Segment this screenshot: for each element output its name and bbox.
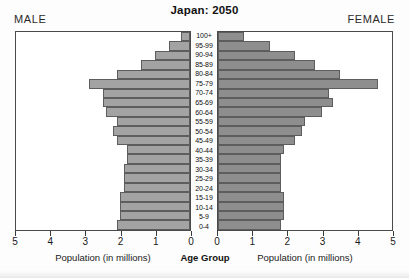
- age-group-label: 45-49: [191, 136, 217, 146]
- female-axis-caption: Population (in millions): [217, 252, 393, 263]
- age-group-label: 60-64: [191, 107, 217, 117]
- age-group-label: 5-9: [191, 212, 217, 222]
- bar: [218, 136, 295, 145]
- bar-row: [16, 220, 190, 229]
- bar: [124, 173, 190, 182]
- bar: [89, 79, 190, 88]
- bar-row: [16, 98, 190, 107]
- age-group-label: 10-14: [191, 203, 217, 213]
- age-group-label: 75-79: [191, 79, 217, 89]
- page-edge-shadow: [0, 270, 409, 278]
- bar: [127, 145, 190, 154]
- bar: [117, 220, 190, 229]
- bar: [218, 183, 281, 192]
- female-side-label: FEMALE: [347, 13, 395, 25]
- age-group-label: 25-29: [191, 174, 217, 184]
- bar: [218, 70, 340, 79]
- bar: [218, 32, 244, 41]
- bar-row: [218, 117, 392, 126]
- age-group-label: 55-59: [191, 117, 217, 127]
- bar: [218, 89, 329, 98]
- age-group-label: 70-74: [191, 88, 217, 98]
- bar-row: [218, 183, 392, 192]
- bar: [155, 51, 190, 60]
- male-plot-panel: [15, 31, 191, 231]
- age-group-label: 35-39: [191, 155, 217, 165]
- bar-row: [218, 164, 392, 173]
- bar: [218, 107, 322, 116]
- axis-tick-label: 3: [313, 236, 333, 247]
- bar: [218, 164, 281, 173]
- bar-row: [218, 145, 392, 154]
- bar-row: [16, 79, 190, 88]
- bar-row: [16, 70, 190, 79]
- male-side-label: MALE: [14, 13, 46, 25]
- axis-tick-label: 5: [5, 236, 25, 247]
- bar: [103, 89, 190, 98]
- age-group-label: 40-44: [191, 145, 217, 155]
- bar-row: [16, 126, 190, 135]
- bar: [218, 202, 284, 211]
- bar-row: [218, 202, 392, 211]
- bar-row: [16, 117, 190, 126]
- bar: [117, 70, 190, 79]
- age-group-label: 95-99: [191, 41, 217, 51]
- axis-tick-label: 4: [348, 236, 368, 247]
- bar: [117, 136, 190, 145]
- axis-tick-label: 5: [383, 236, 403, 247]
- bar-row: [218, 126, 392, 135]
- bar: [218, 126, 302, 135]
- bar: [113, 126, 190, 135]
- bar: [117, 117, 190, 126]
- bar: [141, 60, 190, 69]
- bar: [218, 98, 333, 107]
- age-group-label: 0-4: [191, 222, 217, 232]
- bar: [218, 220, 281, 229]
- bar-row: [218, 173, 392, 182]
- bar: [120, 192, 190, 201]
- bar: [218, 79, 378, 88]
- female-x-axis: 012345: [217, 231, 393, 249]
- bar-row: [16, 164, 190, 173]
- bar: [218, 60, 315, 69]
- bar-row: [16, 192, 190, 201]
- bar-row: [16, 32, 190, 41]
- bar: [124, 183, 190, 192]
- axis-tick-label: 2: [111, 236, 131, 247]
- bar: [120, 202, 190, 211]
- axis-tick-label: 4: [40, 236, 60, 247]
- bar: [218, 154, 281, 163]
- bar: [127, 154, 190, 163]
- axis-tick-label: 2: [277, 236, 297, 247]
- bar-row: [218, 192, 392, 201]
- bar: [169, 41, 190, 50]
- bar-row: [16, 136, 190, 145]
- age-group-label: 85-89: [191, 60, 217, 70]
- age-group-label: 90-94: [191, 50, 217, 60]
- bar: [218, 192, 284, 201]
- bar-row: [16, 202, 190, 211]
- female-bar-rows: [218, 32, 392, 230]
- bar-row: [218, 89, 392, 98]
- bar: [103, 98, 190, 107]
- bar-row: [16, 154, 190, 163]
- bar: [218, 173, 281, 182]
- bar: [218, 145, 284, 154]
- age-group-label: 30-34: [191, 164, 217, 174]
- bar: [124, 164, 190, 173]
- bar-row: [218, 70, 392, 79]
- bar-row: [218, 220, 392, 229]
- bar-row: [218, 154, 392, 163]
- age-group-label: 15-19: [191, 193, 217, 203]
- age-group-label: 20-24: [191, 184, 217, 194]
- axis-tick-label: 3: [75, 236, 95, 247]
- bar: [181, 32, 190, 41]
- axis-tick-label: 1: [146, 236, 166, 247]
- bar-row: [218, 79, 392, 88]
- bar-row: [16, 89, 190, 98]
- bar-row: [218, 211, 392, 220]
- age-group-label: 80-84: [191, 69, 217, 79]
- bar-row: [218, 32, 392, 41]
- bar: [218, 41, 270, 50]
- bar-row: [218, 98, 392, 107]
